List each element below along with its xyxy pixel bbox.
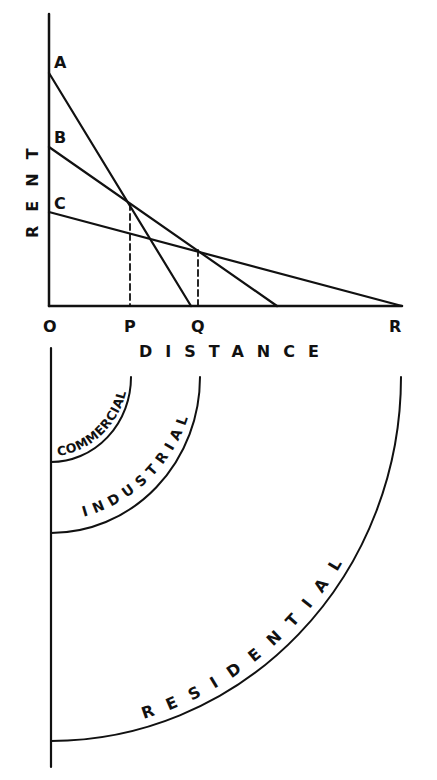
tick-q-label: Q	[191, 317, 205, 336]
residential-zone-label: RESIDENTIAL	[139, 544, 353, 723]
curve-a-label: A	[54, 53, 67, 72]
curve-b-line	[49, 147, 277, 306]
distance-axis-title: DISTANCE	[139, 342, 332, 361]
curve-c-line	[49, 212, 402, 306]
tick-r-label: R	[389, 317, 401, 336]
curve-c-label: C	[54, 194, 66, 213]
curve-b-label: B	[54, 128, 66, 147]
curve-a-line	[49, 73, 191, 306]
rent-graph: A B C O P Q R DISTANCE RENT	[23, 14, 402, 361]
bid-rent-diagram: A B C O P Q R DISTANCE RENT COMMERCIAL I…	[0, 0, 437, 780]
land-use-zones: COMMERCIAL INDUSTRIAL RESIDENTIAL	[51, 348, 401, 767]
rent-axis-title: RENT	[23, 134, 42, 238]
tick-p-label: P	[124, 317, 136, 336]
origin-label: O	[43, 317, 57, 336]
